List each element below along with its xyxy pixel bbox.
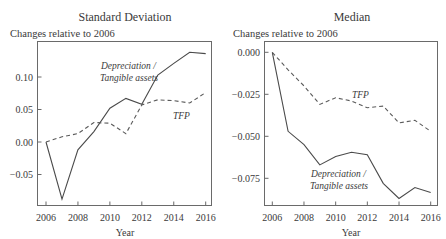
- x-tick-label: 2010: [100, 212, 120, 223]
- chart-title: Standard Deviation: [79, 10, 172, 24]
- annotation-tangible-assets: Tangible assets: [100, 73, 158, 83]
- x-tick-label: 2014: [389, 212, 409, 223]
- figure: Standard Deviation Changes relative to 2…: [0, 0, 446, 239]
- x-axis-ticks: 200620082010201220142016: [36, 202, 216, 224]
- y-tick-label: 0.00: [16, 137, 34, 148]
- y-tick-label: 0.05: [16, 104, 34, 115]
- y-tick-label: 0.10: [16, 72, 34, 83]
- chart-title: Median: [334, 10, 371, 24]
- x-tick-label: 2016: [196, 212, 216, 223]
- panel-median: Median Changes relative to 2006 −0.075−0…: [232, 10, 441, 238]
- x-tick-label: 2012: [357, 212, 377, 223]
- y-tick-label: −0.075: [232, 173, 260, 184]
- annotation-depreciation: Depreciation /: [100, 61, 157, 71]
- x-tick-label: 2010: [326, 212, 346, 223]
- x-tick-label: 2014: [164, 212, 184, 223]
- x-tick-label: 2006: [36, 212, 56, 223]
- x-axis-label: Year: [342, 227, 361, 238]
- annotation-depreciation: Depreciation /: [310, 169, 367, 179]
- x-tick-label: 2008: [68, 212, 88, 223]
- y-tick-label: −0.050: [232, 131, 260, 142]
- x-tick-label: 2006: [262, 212, 282, 223]
- x-tick-label: 2016: [421, 212, 441, 223]
- x-axis-ticks: 200620082010201220142016: [262, 202, 440, 224]
- annotation-tangible-assets: Tangible assets: [310, 181, 368, 191]
- panel-standard-deviation: Standard Deviation Changes relative to 2…: [10, 10, 216, 238]
- x-tick-label: 2008: [294, 212, 314, 223]
- chart-subtitle: Changes relative to 2006: [233, 28, 338, 39]
- annotation-tfp: TFP: [173, 111, 190, 121]
- x-tick-label: 2012: [132, 212, 152, 223]
- y-axis-ticks: −0.050.000.050.10: [10, 72, 42, 181]
- annotation-tfp: TFP: [352, 90, 369, 100]
- x-axis-label: Year: [116, 227, 135, 238]
- chart-subtitle: Changes relative to 2006: [10, 28, 115, 39]
- y-tick-label: −0.025: [232, 89, 260, 100]
- y-tick-label: 0.000: [238, 47, 261, 58]
- y-tick-label: −0.05: [10, 169, 33, 180]
- y-axis-ticks: −0.075−0.050−0.0250.000: [232, 47, 269, 184]
